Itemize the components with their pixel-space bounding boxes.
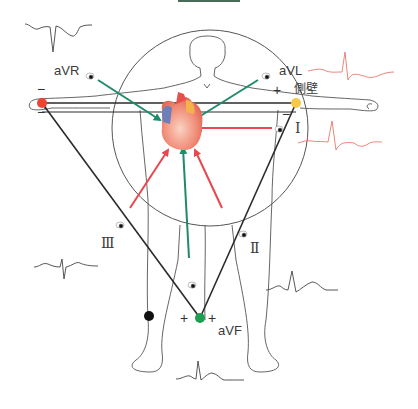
left-leg-plus-left: + xyxy=(180,311,188,325)
aVF-label: aVF xyxy=(218,324,242,337)
waveform-aVR xyxy=(25,24,92,52)
eye-icon xyxy=(116,222,124,228)
aVL-label: aVL xyxy=(279,64,302,77)
lead-II-label: Ⅱ xyxy=(250,242,260,256)
left-leg-electrode xyxy=(195,313,205,323)
lead-aVR-arrow xyxy=(98,80,160,120)
eye-icon xyxy=(275,126,283,132)
eye-icon xyxy=(86,73,94,79)
right-arm-minus-lower: − xyxy=(37,105,45,119)
waveform-aVF xyxy=(176,361,244,380)
bipolar-lead-arrows xyxy=(130,128,272,208)
waveform-I xyxy=(298,121,382,150)
right-leg-electrode xyxy=(144,311,154,321)
ecg-diagram xyxy=(0,0,418,409)
eye-icon xyxy=(239,231,247,237)
heart-icon xyxy=(162,92,203,150)
left-arm-electrode xyxy=(291,98,301,108)
aVR-label: aVR xyxy=(54,64,79,77)
lead-aVF-arrow xyxy=(183,148,189,258)
lead-aVL-arrow xyxy=(194,80,258,120)
lead-II-arrow xyxy=(195,150,222,208)
waveform-III xyxy=(34,259,98,279)
left-arm-plus: + xyxy=(273,83,281,97)
waveform-aVL xyxy=(308,52,394,80)
lead-III-label: Ⅲ xyxy=(101,237,115,251)
eye-icon xyxy=(188,282,196,288)
eye-icon xyxy=(262,73,270,79)
lead-III-arrow xyxy=(130,150,168,208)
waveform-II xyxy=(266,271,338,292)
body-outline xyxy=(29,36,378,372)
lateral-wall-label: 側壁 xyxy=(294,83,318,95)
left-arm-minus: − xyxy=(282,107,290,121)
right-arm-minus: − xyxy=(37,82,45,96)
left-leg-plus-right: + xyxy=(208,311,216,325)
lead-I-label: Ⅰ xyxy=(295,122,301,136)
